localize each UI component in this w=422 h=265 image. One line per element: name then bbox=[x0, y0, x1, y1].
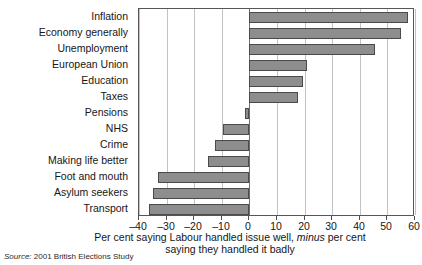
category-label: Taxes bbox=[101, 88, 128, 104]
bar bbox=[249, 60, 307, 71]
category-label: Making life better bbox=[48, 152, 128, 168]
category-label: Foot and mouth bbox=[54, 168, 128, 184]
bar bbox=[249, 28, 401, 39]
source-note: Source: 2001 British Elections Study bbox=[4, 252, 133, 262]
category-label: Unemployment bbox=[57, 40, 128, 56]
category-label: Crime bbox=[100, 136, 128, 152]
category-label: Economy generally bbox=[39, 24, 128, 40]
bar bbox=[249, 92, 297, 103]
x-axis-title-part-2: per cent bbox=[325, 231, 366, 243]
bar bbox=[223, 124, 249, 135]
category-axis: InflationEconomy generallyUnemploymentEu… bbox=[0, 8, 132, 216]
bar bbox=[249, 12, 408, 23]
bar bbox=[208, 156, 249, 167]
bar bbox=[249, 44, 375, 55]
category-label: European Union bbox=[52, 56, 128, 72]
bar bbox=[245, 108, 249, 119]
x-tick-label: 60 bbox=[394, 220, 422, 232]
x-axis-title-italic-word: minus bbox=[297, 231, 325, 243]
gridline-60 bbox=[415, 9, 416, 215]
category-label: Transport bbox=[83, 200, 128, 216]
bar bbox=[149, 204, 250, 215]
bar bbox=[215, 140, 250, 151]
plot-area bbox=[138, 8, 414, 216]
category-label: Inflation bbox=[91, 8, 128, 24]
bar bbox=[153, 188, 250, 199]
source-text: 2001 British Elections Study bbox=[32, 252, 134, 261]
bar bbox=[249, 76, 303, 87]
bars-layer bbox=[139, 9, 413, 215]
x-axis-title-line-1: Per cent saying Labour handled issue wel… bbox=[60, 232, 400, 244]
bar bbox=[158, 172, 249, 183]
category-label: Asylum seekers bbox=[54, 184, 128, 200]
net-handling-rating-bar-chart: InflationEconomy generallyUnemploymentEu… bbox=[0, 0, 422, 265]
x-axis-title-part-1: Per cent saying Labour handled issue wel… bbox=[94, 231, 297, 243]
source-label: Source: bbox=[4, 252, 32, 261]
category-label: Education bbox=[81, 72, 128, 88]
category-label: NHS bbox=[106, 120, 128, 136]
category-label: Pensions bbox=[85, 104, 128, 120]
